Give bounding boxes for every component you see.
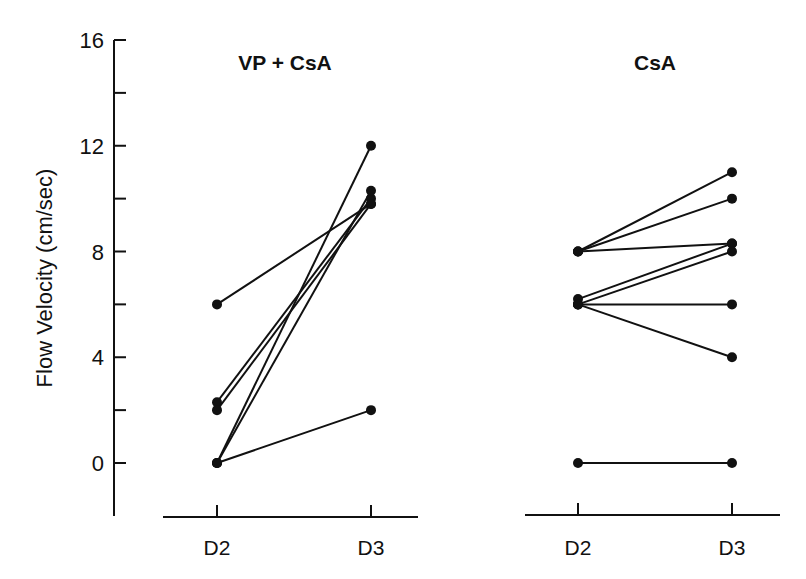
data-point	[727, 458, 737, 468]
series-subject-1	[212, 199, 376, 309]
series-line	[217, 204, 371, 304]
data-point	[212, 405, 222, 415]
y-ticks	[114, 40, 126, 463]
panel-title-vp-csa: VP + CsA	[238, 51, 332, 74]
chart: 0481216 Flow Velocity (cm/sec) VP + CsA …	[0, 0, 806, 579]
y-tick-label: 4	[92, 345, 104, 370]
x-label-d3-left: D3	[358, 536, 385, 559]
y-tick-label: 16	[80, 28, 104, 53]
y-tick-label: 8	[92, 240, 104, 265]
data-point	[727, 299, 737, 309]
series-subject-4	[212, 141, 376, 468]
panel-title-csa: CsA	[634, 51, 676, 74]
series-subject-1	[573, 167, 737, 256]
series-subject-8	[573, 458, 737, 468]
series-line	[578, 252, 732, 305]
panel-vp-csa: VP + CsA D2 D3	[163, 51, 418, 559]
data-point	[727, 352, 737, 362]
series-subject-5	[573, 247, 737, 310]
series-line	[578, 304, 732, 357]
y-tick-labels: 0481216	[80, 28, 104, 476]
data-point	[366, 405, 376, 415]
series-line	[217, 199, 371, 403]
y-tick-label: 0	[92, 451, 104, 476]
y-tick-label: 12	[80, 134, 104, 159]
y-axis-label: Flow Velocity (cm/sec)	[32, 169, 57, 388]
series-subject-6	[212, 405, 376, 468]
data-point	[366, 141, 376, 151]
series-line	[217, 204, 371, 410]
series-line	[217, 146, 371, 463]
series-group-vp-csa	[212, 141, 376, 468]
data-point	[727, 247, 737, 257]
series-subject-7	[573, 299, 737, 362]
data-point	[366, 186, 376, 196]
data-point	[366, 199, 376, 209]
x-label-d2-left: D2	[204, 536, 231, 559]
series-subject-3	[212, 199, 376, 415]
data-point	[573, 247, 583, 257]
series-line	[578, 199, 732, 252]
series-line	[578, 244, 732, 252]
series-line	[217, 410, 371, 463]
data-point	[573, 458, 583, 468]
panel-csa: CsA D2 D3	[525, 51, 780, 559]
data-point	[727, 167, 737, 177]
x-label-d3-right: D3	[719, 536, 746, 559]
series-group-csa	[573, 167, 737, 468]
series-line	[578, 244, 732, 300]
y-axis: 0481216 Flow Velocity (cm/sec)	[32, 28, 126, 516]
series-line	[578, 172, 732, 251]
series-subject-6	[573, 299, 737, 309]
data-point	[727, 194, 737, 204]
series-subject-5	[212, 186, 376, 468]
data-point	[212, 458, 222, 468]
x-label-d2-right: D2	[565, 536, 592, 559]
series-line	[217, 191, 371, 463]
data-point	[212, 299, 222, 309]
data-point	[573, 299, 583, 309]
